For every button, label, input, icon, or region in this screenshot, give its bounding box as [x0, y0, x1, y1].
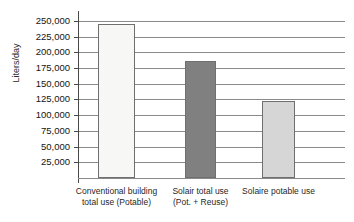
y-axis-tick-label: 25,000	[41, 158, 70, 168]
category-label-line1: Conventional building	[76, 186, 157, 196]
category-label-line1: Solaire potable use	[242, 186, 315, 196]
x-axis-line	[78, 178, 345, 179]
y-axis-tickmark	[74, 21, 79, 22]
y-axis-tickmark	[74, 131, 79, 132]
gridline	[78, 21, 345, 22]
plot-area	[78, 13, 345, 178]
y-axis-tickmark	[74, 68, 79, 69]
y-axis-tick-label: 125,000	[36, 95, 70, 105]
y-axis-tickmark	[74, 162, 79, 163]
y-axis-tick-label: 250,000	[36, 16, 70, 26]
bar-chart: Liters/day 250,000225,000200,000175,0001…	[0, 0, 354, 222]
y-axis-tickmark	[74, 52, 79, 53]
y-axis-tickmark	[74, 37, 79, 38]
y-axis-tick-label: 100,000	[36, 110, 70, 120]
x-axis-category-labels: Conventional buildingtotal use (Potable)…	[0, 186, 354, 220]
category-label-line2: (Pot. + Reuse)	[149, 197, 253, 208]
bar	[262, 101, 295, 178]
y-axis-tickmark	[74, 115, 79, 116]
category-label: Solaire potable use	[227, 186, 331, 197]
y-axis-tick-label: 75,000	[41, 126, 70, 136]
y-axis-tick-label: 150,000	[36, 79, 70, 89]
category-label-line1: Solair total use	[172, 186, 228, 196]
y-axis-tickmark	[74, 84, 79, 85]
y-axis-tick-labels: 250,000225,000200,000175,000150,000125,0…	[0, 0, 76, 185]
y-axis-tickmark	[74, 147, 79, 148]
y-axis-tick-label: 50,000	[41, 142, 70, 152]
y-axis-tickmark	[74, 99, 79, 100]
y-axis-tick-label: 200,000	[36, 48, 70, 58]
bar	[185, 61, 216, 178]
y-axis-tick-label: 225,000	[36, 32, 70, 42]
bar	[98, 24, 135, 178]
y-axis-tick-label: 175,000	[36, 63, 70, 73]
